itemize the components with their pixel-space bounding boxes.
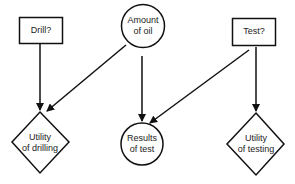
utility-of-drilling-label-line-1: Utility [22,132,58,143]
results-of-test-label: Results of test [127,133,157,155]
amount-of-oil-label: Amount of oil [127,15,158,37]
results-of-test-label-line-1: Results [127,133,157,144]
utility-of-drilling-label-line-2: of drilling [22,143,58,154]
amount-of-oil-label-line-1: Amount [127,15,158,26]
test-label: Test? [243,26,265,37]
edge-oil-to-utility-drilling [47,45,126,111]
edge-test-to-results [150,50,249,123]
amount-of-oil-label-line-2: of oil [127,26,158,37]
drill-label: Drill? [31,25,52,36]
utility-of-testing-label-line-1: Utility [238,133,275,144]
test-label-line-1: Test? [243,26,265,37]
utility-of-testing-label-line-2: of testing [238,144,275,155]
results-of-test-label-line-2: of test [127,144,157,155]
drill-label-line-1: Drill? [31,25,52,36]
utility-of-testing-label: Utility of testing [238,133,275,155]
utility-of-drilling-label: Utility of drilling [22,132,58,154]
